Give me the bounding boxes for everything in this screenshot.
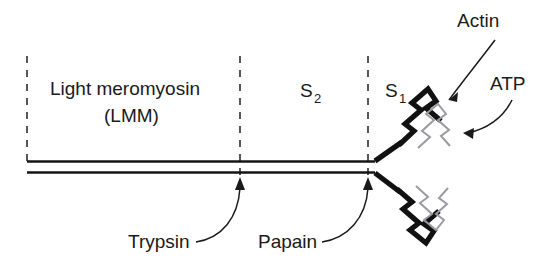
actin-callout [449, 40, 495, 102]
myosin-rod [27, 162, 375, 173]
lmm-label-line2: (LMM) [104, 105, 159, 126]
papain-arrow-head [363, 177, 373, 190]
trypsin-label: Trypsin [128, 231, 190, 252]
s2-label-subscript: 2 [314, 91, 321, 106]
lower-head [375, 173, 448, 243]
actin-arrow-curve [449, 40, 495, 100]
lmm-label-line1: Light meromyosin [50, 78, 200, 99]
atp-arrow-head [463, 128, 474, 139]
diagram-canvas: Light meromyosin (LMM) S 2 S 1 Actin ATP… [0, 0, 555, 268]
trypsin-callout [196, 177, 245, 242]
s2-label: S [300, 80, 313, 101]
papain-arrow-curve [322, 188, 368, 242]
myosin-diagram: Light meromyosin (LMM) S 2 S 1 Actin ATP… [0, 0, 555, 268]
lower-head-neck [375, 173, 400, 192]
s1-label-subscript: 1 [399, 91, 406, 106]
papain-label: Papain [258, 231, 317, 252]
trypsin-arrow-curve [196, 188, 240, 242]
actin-label: Actin [457, 10, 499, 31]
lower-head-bold-zigzag [397, 189, 439, 243]
region-dividers [27, 56, 368, 176]
papain-callout [322, 177, 373, 242]
s1-label: S [385, 80, 398, 101]
trypsin-arrow-head [235, 177, 245, 190]
atp-callout [463, 100, 512, 139]
atp-label: ATP [490, 73, 526, 94]
upper-head-neck [375, 142, 402, 161]
atp-arrow-curve [468, 100, 512, 133]
